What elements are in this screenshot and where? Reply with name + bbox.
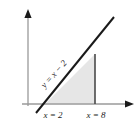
math-figure: y = x − 2 x = 2 x = 8 [0, 0, 140, 128]
y-axis-arrowhead-icon [24, 9, 31, 18]
x-axis-arrowhead-icon [125, 100, 134, 107]
coordinate-plane-diagram: y = x − 2 x = 2 x = 8 [0, 0, 140, 128]
left-boundary-label: x = 2 [42, 110, 63, 120]
right-boundary-label: x = 8 [85, 110, 106, 120]
